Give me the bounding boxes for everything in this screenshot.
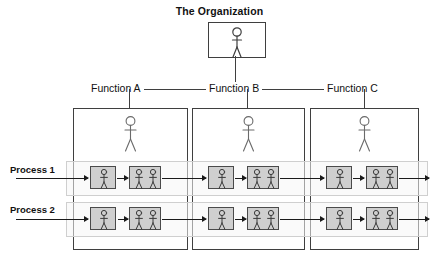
- person-icon: [209, 167, 235, 190]
- diagram-canvas: The Organization Function A Function B F…: [0, 0, 439, 263]
- process-1-arrow-4: [313, 178, 324, 179]
- function-c-label: Function C: [324, 82, 381, 94]
- person-icon: [193, 111, 304, 159]
- process-1-entry-line: [16, 178, 78, 179]
- process-1-exit-arrow: [418, 178, 429, 179]
- people-icon: [130, 167, 162, 190]
- process-2-entry-line: [16, 219, 78, 220]
- people-icon: [248, 208, 280, 231]
- function-b-label: Function B: [206, 82, 262, 94]
- process-2-step-1[interactable]: [90, 207, 116, 230]
- process-1-arrow-3: [235, 178, 246, 179]
- process-1-step-1[interactable]: [90, 166, 116, 189]
- person-icon: [91, 208, 117, 231]
- person-icon: [311, 111, 418, 159]
- process-2-step-3[interactable]: [208, 207, 234, 230]
- process-1-step-5[interactable]: [326, 166, 352, 189]
- process-2-step-4[interactable]: [247, 207, 279, 230]
- people-icon: [248, 167, 280, 190]
- person-icon: [209, 208, 235, 231]
- process-2-label: Process 2: [9, 204, 56, 215]
- process-1-entry-arrow: [78, 178, 88, 179]
- people-icon: [367, 208, 399, 231]
- process-2-entry-arrow: [78, 219, 88, 220]
- organization-box: [208, 22, 266, 58]
- person-icon: [209, 23, 265, 57]
- process-2-arrow-3: [235, 219, 246, 220]
- process-1-step-6[interactable]: [366, 166, 398, 189]
- process-2-step-5[interactable]: [326, 207, 352, 230]
- process-1-label: Process 1: [9, 164, 56, 175]
- process-1-step-4[interactable]: [247, 166, 279, 189]
- function-c-stem: [364, 89, 365, 108]
- process-1-arrow-5: [353, 178, 364, 179]
- process-2-arrow-1: [118, 219, 128, 220]
- people-icon: [367, 167, 399, 190]
- process-2-arrow-5: [353, 219, 364, 220]
- process-2-arrow-2: [195, 219, 206, 220]
- process-1-arrow-2: [195, 178, 206, 179]
- process-1-step-2[interactable]: [129, 166, 161, 189]
- person-icon: [91, 167, 117, 190]
- process-2-step-2[interactable]: [129, 207, 161, 230]
- function-a-label: Function A: [88, 82, 144, 94]
- person-icon: [327, 167, 353, 190]
- process-1-arrow-1: [117, 178, 128, 179]
- person-icon: [74, 111, 187, 159]
- process-2-step-6[interactable]: [366, 207, 398, 230]
- person-icon: [327, 208, 353, 231]
- people-icon: [130, 208, 162, 231]
- process-2-exit-arrow: [418, 219, 429, 220]
- function-a-stem: [129, 89, 130, 108]
- process-1-step-3[interactable]: [208, 166, 234, 189]
- page-title: The Organization: [0, 5, 439, 17]
- process-2-arrow-4: [313, 219, 324, 220]
- function-b-stem: [247, 89, 248, 108]
